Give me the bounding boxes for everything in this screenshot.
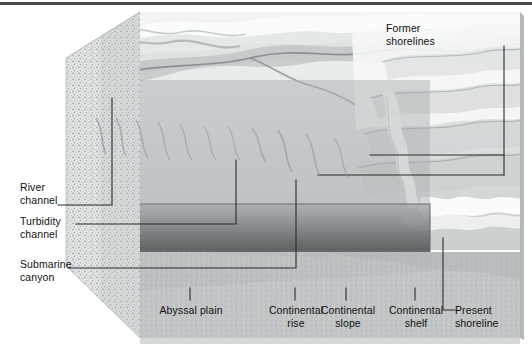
label-present-shoreline: Present shoreline: [455, 304, 529, 329]
label-turbidity-channel: Turbidity channel: [20, 215, 100, 240]
block-diagram-illustration: [0, 0, 532, 344]
label-abyssal-plain: Abyssal plain: [150, 304, 232, 317]
label-former-shorelines: Former shorelines: [386, 22, 466, 47]
figure-canvas: River channel Turbidity channel Submarin…: [0, 0, 532, 344]
label-continental-shelf: Continental shelf: [378, 304, 454, 329]
label-submarine-canyon: Submarine canyon: [20, 258, 104, 283]
label-river-channel: River channel: [20, 181, 90, 206]
label-continental-slope: Continental slope: [310, 304, 386, 329]
